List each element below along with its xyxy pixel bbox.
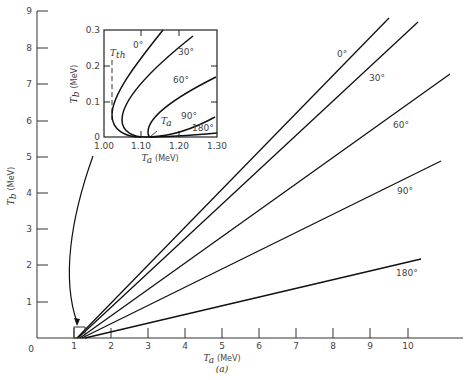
svg-text:6: 6: [256, 341, 262, 351]
y-tick-labels: 9 8 7 6 5 4 3 2 1 0: [26, 6, 34, 354]
svg-text:180°: 180°: [192, 123, 214, 133]
series-line-90deg: [82, 161, 441, 338]
svg-text:0.1: 0.1: [86, 97, 100, 107]
arrowhead-icon: [74, 318, 80, 326]
svg-text:3: 3: [145, 341, 151, 351]
svg-text:7: 7: [293, 341, 299, 351]
svg-text:1: 1: [71, 341, 77, 351]
chart-canvas: 9 8 7 6 5 4 3 2 1 0 1 2 3 4 5 6 7 8 9 10…: [0, 0, 469, 380]
svg-text:30°: 30°: [369, 73, 385, 83]
y-ticks: [37, 11, 48, 302]
x-tick-labels: 1 2 3 4 5 6 7 8 9 10: [71, 341, 414, 351]
inset-y-axis-label: Tb(MeV): [69, 65, 81, 103]
svg-text:2: 2: [26, 260, 32, 270]
svg-text:1.20: 1.20: [169, 141, 189, 151]
svg-text:2: 2: [108, 341, 114, 351]
svg-text:0: 0: [28, 344, 34, 354]
callout-arrow: [69, 156, 93, 322]
inset-x-axis-label: Ta(MeV): [141, 153, 178, 165]
svg-text:60°: 60°: [173, 75, 189, 85]
svg-text:0.2: 0.2: [86, 61, 100, 71]
svg-text:4: 4: [182, 341, 188, 351]
svg-text:60°: 60°: [393, 120, 409, 130]
svg-text:180°: 180°: [396, 268, 418, 278]
svg-text:0°: 0°: [337, 49, 347, 59]
svg-text:1.10: 1.10: [131, 141, 151, 151]
svg-text:90°: 90°: [397, 186, 413, 196]
svg-text:30°: 30°: [178, 47, 194, 57]
svg-text:4: 4: [26, 188, 32, 198]
svg-text:7: 7: [26, 79, 32, 89]
svg-text:0.3: 0.3: [86, 25, 100, 35]
svg-text:6: 6: [26, 116, 32, 126]
panel-label: (a): [216, 364, 229, 374]
svg-text:9: 9: [367, 341, 373, 351]
svg-text:9: 9: [26, 6, 32, 16]
svg-text:5: 5: [219, 341, 225, 351]
svg-text:1.30: 1.30: [207, 141, 227, 151]
svg-text:5: 5: [26, 152, 32, 162]
svg-text:0°: 0°: [133, 40, 143, 50]
inset-chart: 0.3 0.2 0.1 0 1.00 1.10 1.20 1.30 Ta(MeV…: [69, 25, 227, 165]
svg-text:90°: 90°: [181, 111, 197, 121]
svg-text:10: 10: [402, 341, 414, 351]
x-ticks: [74, 328, 408, 338]
svg-text:8: 8: [330, 341, 336, 351]
main-series-labels: 0° 30° 60° 90° 180°: [337, 49, 418, 278]
main-axes: [37, 11, 463, 338]
svg-text:8: 8: [26, 43, 32, 53]
svg-text:3: 3: [26, 224, 32, 234]
main-y-axis-label: Tb(MeV): [6, 167, 18, 205]
svg-text:1: 1: [26, 297, 32, 307]
svg-text:1.00: 1.00: [94, 141, 114, 151]
